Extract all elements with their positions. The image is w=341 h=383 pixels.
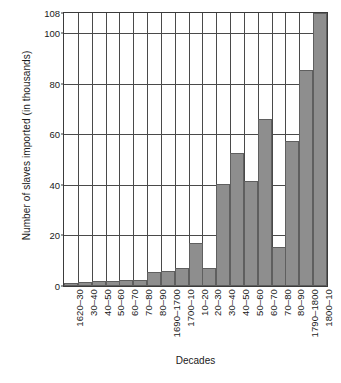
y-tick-label: 100 <box>44 28 60 39</box>
x-tick-label: 50–60 <box>254 289 265 316</box>
caption-text <box>36 376 326 383</box>
bar <box>258 119 272 286</box>
bar <box>244 181 258 286</box>
bar <box>161 271 175 286</box>
bar-series <box>64 13 327 286</box>
bar <box>313 13 327 286</box>
x-axis-title: Decades <box>63 355 328 366</box>
y-tick-label: 60 <box>49 129 60 140</box>
y-tick-label: 0 <box>55 281 60 292</box>
y-tick-label: 40 <box>49 179 60 190</box>
x-tick-label: 1620–30 <box>74 289 85 327</box>
bar <box>299 70 313 286</box>
bar <box>202 268 216 286</box>
x-tick-label: 20–30 <box>212 289 223 316</box>
x-tick-label: 10–20 <box>199 289 210 316</box>
bar <box>119 280 133 286</box>
x-tick-label: 1700–10 <box>185 289 196 327</box>
x-tick-labels: 1620–3030–4040–5050–6060–7070–8080–90169… <box>63 289 328 351</box>
y-axis-title: Number of slaves imported (in thousands) <box>21 16 32 276</box>
y-tick-mark <box>61 235 64 236</box>
chart-figure: Number of slaves imported (in thousands)… <box>0 0 341 383</box>
bar <box>175 268 189 286</box>
x-tick-label: 40–50 <box>240 289 251 316</box>
y-tick-label: 108 <box>44 8 60 19</box>
y-tick-mark <box>61 134 64 135</box>
bar <box>285 141 299 286</box>
bar <box>230 153 244 286</box>
y-tick-mark <box>61 13 64 14</box>
bar <box>64 283 78 286</box>
bar <box>106 281 120 286</box>
y-tick-mark <box>61 83 64 84</box>
x-tick-label: 50–60 <box>115 289 126 316</box>
bar <box>78 282 92 286</box>
x-tick-label: 80–90 <box>157 289 168 316</box>
x-tick-label: 80–90 <box>295 289 306 316</box>
x-tick-label: 1800–10 <box>323 289 334 327</box>
x-tick-label: 1690–1700 <box>171 289 182 337</box>
bar <box>92 281 106 286</box>
y-tick-label: 20 <box>49 230 60 241</box>
bar <box>147 272 161 286</box>
x-tick-label: 70–80 <box>282 289 293 316</box>
x-tick-label: 40–50 <box>102 289 113 316</box>
y-tick-mark <box>61 33 64 34</box>
x-tick-label: 60–70 <box>268 289 279 316</box>
x-tick-label: 30–40 <box>88 289 99 316</box>
y-tick-label: 80 <box>49 78 60 89</box>
y-tick-mark <box>61 184 64 185</box>
bar <box>216 184 230 286</box>
bar <box>272 247 286 286</box>
bar <box>133 280 147 286</box>
y-tick-mark <box>61 286 64 287</box>
x-tick-label: 1790–1800 <box>309 289 320 337</box>
plot-area: 020406080100108 <box>63 12 328 287</box>
x-tick-label: 30–40 <box>226 289 237 316</box>
bar <box>189 243 203 286</box>
x-tick-label: 70–80 <box>143 289 154 316</box>
x-tick-label: 60–70 <box>129 289 140 316</box>
